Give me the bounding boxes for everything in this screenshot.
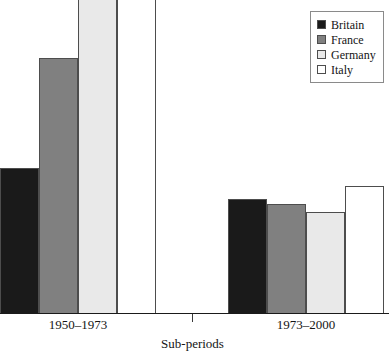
legend-item-france: France (317, 32, 376, 47)
legend-item-italy: Italy (317, 62, 376, 77)
x-axis-line (0, 313, 389, 314)
bar-france-1950-1973 (39, 58, 78, 314)
bar-germany-1973-2000 (306, 212, 345, 314)
bar-france-1973-2000 (267, 204, 306, 314)
legend-label-france: France (331, 34, 364, 46)
x-tick-label-1950-1973: 1950–1973 (0, 317, 156, 333)
legend-swatch-italy-icon (317, 65, 326, 74)
legend-swatch-germany-icon (317, 50, 326, 59)
legend-label-italy: Italy (331, 64, 353, 76)
bar-germany-1950-1973 (78, 0, 117, 314)
bar-italy-1950-1973 (117, 0, 156, 314)
bar-britain-1973-2000 (228, 199, 267, 314)
bar-chart: 1950–1973 1973–2000 Sub-periods Britain … (0, 0, 389, 357)
legend-item-britain: Britain (317, 17, 376, 32)
legend-swatch-britain-icon (317, 20, 326, 29)
legend: Britain France Germany Italy (310, 11, 384, 83)
legend-label-germany: Germany (331, 49, 376, 61)
bar-italy-1973-2000 (345, 186, 384, 314)
legend-swatch-france-icon (317, 35, 326, 44)
x-tick-label-1973-2000: 1973–2000 (228, 317, 384, 333)
x-axis-title: Sub-periods (120, 336, 265, 352)
legend-label-britain: Britain (331, 19, 364, 31)
bar-britain-1950-1973 (0, 168, 39, 314)
x-axis-tick (192, 314, 193, 322)
legend-item-germany: Germany (317, 47, 376, 62)
